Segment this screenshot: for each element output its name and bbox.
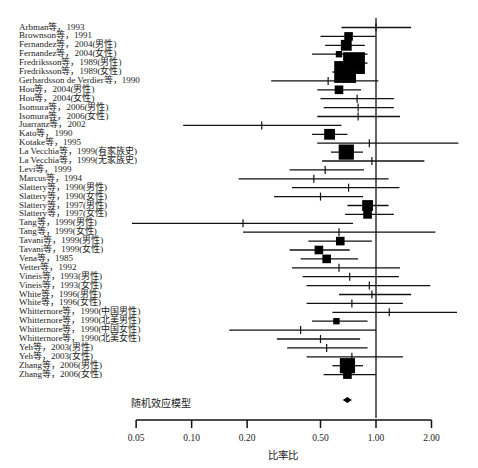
point-estimate-square <box>333 318 339 324</box>
point-estimate-square <box>335 86 344 95</box>
x-tick-label: 0.10 <box>183 433 200 443</box>
x-tick-label: 0.20 <box>239 433 256 443</box>
point-estimate-square <box>363 210 372 219</box>
point-estimate-square <box>336 51 342 57</box>
pooled-diamond <box>343 397 352 403</box>
point-estimate-square <box>339 145 354 160</box>
x-tick-label: 0.05 <box>128 433 145 443</box>
point-estimate-square <box>334 61 356 83</box>
forest-plot <box>0 0 478 468</box>
x-axis-label: 比率比 <box>268 447 298 462</box>
point-estimate-square <box>344 32 353 41</box>
point-estimate-square <box>322 255 331 264</box>
point-estimate-square <box>343 370 352 379</box>
x-tick-label: 0.50 <box>312 433 329 443</box>
x-tick-label: 1.00 <box>368 433 385 443</box>
pooled-model-label: 随机效应模型 <box>131 395 191 410</box>
point-estimate-square <box>341 40 352 51</box>
point-estimate-square <box>362 200 373 211</box>
point-estimate-square <box>324 129 335 140</box>
x-tick-label: 2.00 <box>423 433 440 443</box>
point-estimate-square <box>336 237 345 246</box>
point-estimate-square <box>315 246 324 255</box>
